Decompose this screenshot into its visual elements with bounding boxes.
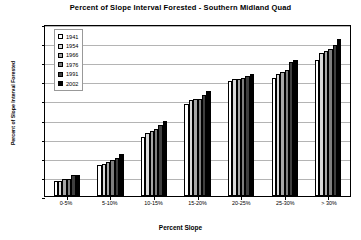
- legend-swatch-icon: [58, 34, 63, 39]
- x-tick-label: 5-10%: [88, 200, 132, 206]
- x-tick-label: 15-20%: [176, 200, 220, 206]
- legend-swatch-icon: [58, 53, 63, 58]
- chart-title: Percent of Slope Interval Forested - Sou…: [0, 3, 361, 12]
- legend-item[interactable]: 2002: [58, 79, 78, 88]
- legend: 194119541966197619912002: [54, 29, 83, 91]
- chart-container: Percent of Slope Interval Forested - Sou…: [0, 0, 361, 240]
- legend-item[interactable]: 1966: [58, 51, 78, 60]
- plot-area: [44, 25, 351, 197]
- bar[interactable]: [119, 154, 123, 196]
- legend-label: 1966: [66, 52, 78, 58]
- x-axis-title: Percent Slope: [0, 224, 361, 231]
- legend-item[interactable]: 1941: [58, 32, 78, 41]
- x-tick-label: > 30%: [307, 200, 351, 206]
- legend-swatch-icon: [58, 62, 63, 67]
- bar-group: [263, 26, 307, 196]
- bar-groups: [45, 26, 350, 196]
- legend-swatch-icon: [58, 72, 63, 77]
- legend-label: 1954: [66, 43, 78, 49]
- legend-label: 1976: [66, 62, 78, 68]
- bar-group: [306, 26, 350, 196]
- legend-swatch-icon: [58, 44, 63, 49]
- y-tick-mark: [42, 198, 45, 199]
- legend-label: 1941: [66, 34, 78, 40]
- x-tick-label: 0-5%: [44, 200, 88, 206]
- legend-item[interactable]: 1954: [58, 41, 78, 50]
- bar-group: [219, 26, 263, 196]
- x-tick-label: 25-30%: [263, 200, 307, 206]
- legend-swatch-icon: [58, 81, 63, 86]
- bar[interactable]: [250, 74, 254, 196]
- legend-item[interactable]: 1991: [58, 70, 78, 79]
- bar-group: [176, 26, 220, 196]
- bar[interactable]: [337, 39, 341, 196]
- legend-item[interactable]: 1976: [58, 60, 78, 69]
- x-tick-label: 10-15%: [132, 200, 176, 206]
- y-axis-title: Percent of Slope Interval Forested: [10, 38, 16, 168]
- bar-group: [132, 26, 176, 196]
- bar[interactable]: [76, 175, 80, 196]
- bar[interactable]: [293, 60, 297, 196]
- legend-label: 2002: [66, 81, 78, 87]
- bar[interactable]: [163, 121, 167, 196]
- bar[interactable]: [206, 91, 210, 196]
- x-tick-label: 20-25%: [219, 200, 263, 206]
- bar-group: [89, 26, 133, 196]
- legend-label: 1991: [66, 71, 78, 77]
